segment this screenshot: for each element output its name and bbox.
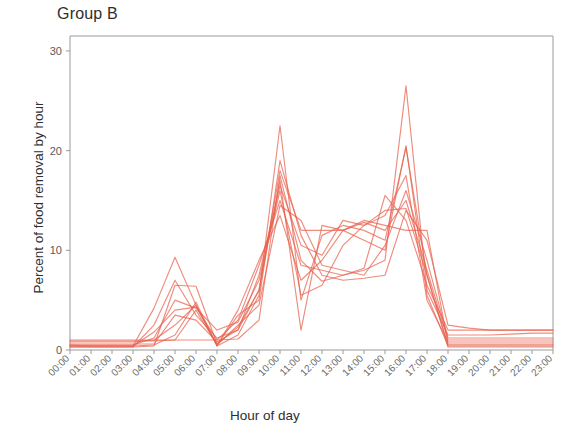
series-line	[70, 126, 553, 346]
plot-frame	[70, 36, 553, 350]
x-tick-label: 08:00	[214, 352, 240, 378]
x-tick-label: 16:00	[382, 352, 408, 378]
series-line	[70, 181, 553, 347]
x-tick-label: 17:00	[403, 352, 429, 378]
series-line	[70, 171, 553, 347]
x-tick-label: 22:00	[508, 352, 534, 378]
y-tick-label: 10	[50, 244, 62, 256]
x-tick-label: 01:00	[67, 352, 93, 378]
series-line	[70, 86, 553, 340]
x-tick-label: 10:00	[256, 352, 282, 378]
x-tick-label: 05:00	[151, 352, 177, 378]
x-tick-label: 21:00	[487, 352, 513, 378]
x-tick-label: 20:00	[466, 352, 492, 378]
series-line	[70, 146, 553, 346]
x-tick-label: 23:00	[529, 352, 555, 378]
plot-area: 010203000:0001:0002:0003:0004:0005:0006:…	[0, 0, 570, 431]
x-tick-label: 02:00	[88, 352, 114, 378]
chart-figure: Group B Percent of food removal by hour …	[0, 0, 570, 431]
y-tick-label: 20	[50, 145, 62, 157]
x-tick-label: 18:00	[424, 352, 450, 378]
series-line	[70, 161, 553, 345]
x-tick-label: 14:00	[340, 352, 366, 378]
y-tick-label: 30	[50, 45, 62, 57]
x-tick-label: 07:00	[193, 352, 219, 378]
x-tick-label: 15:00	[361, 352, 387, 378]
x-tick-label: 06:00	[172, 352, 198, 378]
x-tick-label: 04:00	[130, 352, 156, 378]
x-tick-label: 13:00	[319, 352, 345, 378]
series-group	[70, 86, 553, 347]
x-tick-label: 12:00	[298, 352, 324, 378]
x-tick-label: 00:00	[46, 352, 72, 378]
x-tick-label: 11:00	[277, 352, 302, 377]
x-tick-label: 09:00	[235, 352, 261, 378]
x-tick-label: 19:00	[445, 352, 471, 378]
series-line	[70, 176, 553, 345]
x-tick-label: 03:00	[109, 352, 135, 378]
